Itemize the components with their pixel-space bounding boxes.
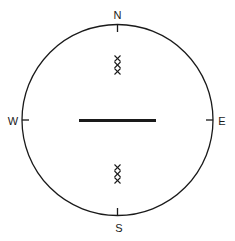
compass-diagram: N S W E (0, 0, 235, 241)
x-marker-icon (115, 165, 121, 171)
north-label: N (114, 9, 122, 21)
west-label: W (8, 115, 19, 127)
east-label: E (218, 115, 225, 127)
x-marker-icon (115, 62, 121, 68)
south-label: S (115, 222, 122, 234)
x-marker-icon (115, 178, 121, 184)
south-x-markers (115, 165, 121, 184)
x-marker-icon (115, 56, 121, 62)
north-x-markers (115, 56, 121, 75)
x-marker-icon (115, 171, 121, 177)
x-marker-icon (115, 69, 121, 75)
